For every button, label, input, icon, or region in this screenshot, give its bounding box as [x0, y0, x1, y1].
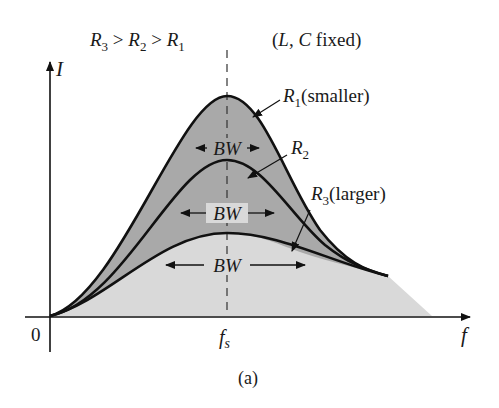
origin-label: 0	[31, 324, 41, 345]
leader-arrow-r1	[253, 100, 280, 117]
resonance-curve-diagram: BW BW BW R1(smaller) R2 R3(larger) R3 > …	[0, 0, 499, 408]
figure-caption: (a)	[238, 368, 258, 389]
x-axis-label: f	[461, 323, 470, 347]
fixed-components-label: (L, C fixed)	[272, 29, 361, 51]
bw-label-r2: BW	[213, 203, 243, 224]
bw-label-r1: BW	[213, 138, 243, 159]
resonance-frequency-label: fs	[219, 326, 231, 351]
y-axis-label: I	[55, 57, 64, 81]
resistance-order-label: R3 > R2 > R1	[89, 29, 185, 54]
curve-label-r1: R1(smaller)	[282, 85, 370, 110]
bw-label-r3: BW	[213, 255, 243, 276]
curve-label-r2: R2	[290, 137, 309, 162]
curve-label-r3: R3(larger)	[310, 183, 386, 208]
